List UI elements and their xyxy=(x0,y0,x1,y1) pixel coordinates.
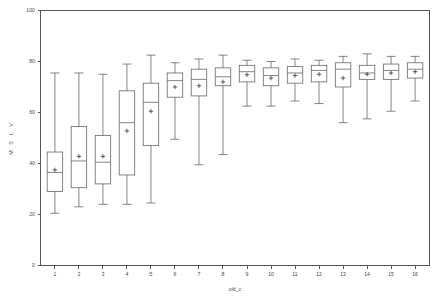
box-group-12 xyxy=(311,60,327,103)
x-tick-label: 5 xyxy=(150,271,153,277)
box-series xyxy=(47,54,423,213)
box-group-8 xyxy=(215,55,231,154)
box-iqr xyxy=(191,69,207,96)
box-group-3 xyxy=(95,74,111,204)
y-tick-label: 40 xyxy=(29,160,35,166)
box-group-13 xyxy=(335,56,351,122)
x-axis-title: old_c xyxy=(229,286,242,292)
box-group-7 xyxy=(191,59,207,165)
box-group-2 xyxy=(71,73,87,207)
x-tick-label: 16 xyxy=(412,271,418,277)
box-group-14 xyxy=(359,54,375,119)
box-group-15 xyxy=(383,56,399,111)
box-iqr xyxy=(95,135,111,183)
box-group-10 xyxy=(263,62,279,107)
box-iqr xyxy=(143,83,159,145)
box-group-16 xyxy=(407,56,423,101)
plot-border xyxy=(41,11,430,266)
plot-canvas: 020406080100 12345678910111213141516 M S… xyxy=(0,0,439,302)
x-tick-label: 7 xyxy=(198,271,201,277)
box-group-4 xyxy=(119,64,135,204)
x-tick-label: 15 xyxy=(388,271,394,277)
x-tick-label: 10 xyxy=(268,271,274,277)
y-tick-label: 80 xyxy=(29,58,35,64)
box-group-1 xyxy=(47,73,63,213)
x-tick-label: 11 xyxy=(292,271,297,277)
box-group-6 xyxy=(167,63,183,139)
y-axis: 020406080100 xyxy=(26,7,40,268)
box-group-5 xyxy=(143,55,159,203)
box-iqr xyxy=(335,63,351,87)
x-tick-label: 1 xyxy=(53,271,56,277)
x-tick-label: 4 xyxy=(125,271,128,277)
x-tick-label: 13 xyxy=(340,271,346,277)
x-tick-label: 8 xyxy=(222,271,225,277)
box-group-9 xyxy=(239,60,255,106)
x-axis: 12345678910111213141516 xyxy=(53,266,418,278)
x-tick-label: 2 xyxy=(77,271,80,277)
plot-frame xyxy=(41,11,430,266)
y-tick-label: 0 xyxy=(32,262,35,268)
x-tick-label: 9 xyxy=(246,271,249,277)
y-tick-label: 60 xyxy=(29,109,35,115)
box-plot-chart: 020406080100 12345678910111213141516 M S… xyxy=(0,0,439,302)
x-tick-label: 6 xyxy=(174,271,177,277)
box-group-11 xyxy=(287,59,303,101)
y-tick-label: 20 xyxy=(29,211,35,217)
x-tick-label: 14 xyxy=(364,271,370,277)
y-tick-label: 100 xyxy=(26,7,35,13)
y-axis-title: M S L V xyxy=(8,121,14,155)
x-tick-label: 3 xyxy=(101,271,104,277)
x-tick-label: 12 xyxy=(316,271,322,277)
